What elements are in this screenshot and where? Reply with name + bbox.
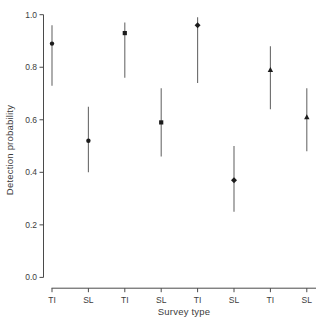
x-tick-label: TI xyxy=(194,295,202,305)
y-tick-label: 0.0 xyxy=(25,272,37,282)
detection-probability-figure: 0.00.20.40.60.81.0TISLTISLTISLTISL Detec… xyxy=(0,0,322,323)
chart-canvas: 0.00.20.40.60.81.0TISLTISLTISLTISL xyxy=(0,0,322,323)
point-marker-triangle xyxy=(268,67,273,72)
point-marker-circle xyxy=(86,139,90,143)
y-tick-label: 0.4 xyxy=(25,167,37,177)
y-axis-title: Detection probability xyxy=(4,105,15,195)
point-marker-diamond xyxy=(195,22,201,28)
x-tick-label: TI xyxy=(121,295,129,305)
y-tick-label: 1.0 xyxy=(25,10,37,20)
point-marker-triangle xyxy=(304,114,309,119)
y-tick-label: 0.8 xyxy=(25,62,37,72)
x-tick-label: SL xyxy=(83,295,94,305)
x-tick-label: SL xyxy=(156,295,167,305)
x-tick-label: SL xyxy=(229,295,240,305)
x-tick-label: TI xyxy=(48,295,56,305)
x-axis-title: Survey type xyxy=(158,306,210,317)
x-tick-label: SL xyxy=(302,295,313,305)
point-marker-square xyxy=(123,31,127,35)
x-tick-label: TI xyxy=(267,295,275,305)
point-marker-square xyxy=(159,120,163,124)
point-marker-circle xyxy=(50,41,54,45)
point-marker-diamond xyxy=(231,177,237,183)
y-tick-label: 0.2 xyxy=(25,220,37,230)
y-tick-label: 0.6 xyxy=(25,115,37,125)
